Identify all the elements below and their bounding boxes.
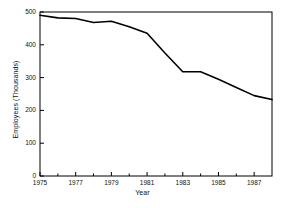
chart-canvas: [0, 0, 285, 208]
line-chart: Employees (Thousands) Year 0100200300400…: [0, 0, 285, 208]
x-axis-label: Year: [0, 189, 285, 196]
x-tick-label: 1975: [25, 179, 55, 186]
y-tick-label: 0: [14, 172, 36, 179]
plot-frame: [40, 12, 272, 176]
y-tick-label: 500: [14, 8, 36, 15]
x-tick-label: 1979: [96, 179, 126, 186]
x-tick-label: 1981: [132, 179, 162, 186]
y-tick-label: 200: [14, 106, 36, 113]
x-axis-ticks: [40, 172, 254, 176]
data-series-line: [40, 15, 272, 99]
x-tick-label: 1977: [61, 179, 91, 186]
x-tick-label: 1987: [239, 179, 269, 186]
y-tick-label: 300: [14, 74, 36, 81]
y-axis-ticks: [40, 12, 44, 176]
x-tick-label: 1983: [168, 179, 198, 186]
y-axis-label: Employees (Thousands): [12, 52, 19, 148]
x-tick-label: 1985: [203, 179, 233, 186]
y-tick-label: 100: [14, 139, 36, 146]
y-tick-label: 400: [14, 41, 36, 48]
